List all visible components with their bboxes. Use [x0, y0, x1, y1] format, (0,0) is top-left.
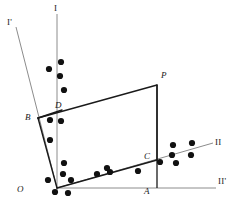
axis-I-prime-label: I'	[7, 18, 12, 27]
data-point	[57, 73, 63, 79]
axes-group	[16, 14, 216, 190]
data-point	[46, 66, 52, 72]
data-point	[60, 171, 66, 177]
data-point	[173, 160, 179, 166]
label-B: B	[25, 113, 31, 122]
data-point	[47, 137, 53, 143]
label-A: A	[144, 187, 150, 196]
data-point	[94, 171, 100, 177]
data-point	[47, 117, 53, 123]
data-point	[107, 169, 113, 175]
data-point	[188, 152, 194, 158]
label-O: O	[17, 185, 24, 194]
axis-II-prime-label: II'	[218, 177, 226, 186]
data-point	[135, 168, 141, 174]
data-point	[45, 177, 51, 183]
axis-I-label: I	[54, 4, 57, 13]
figure-canvas: II'IIII' OABCDP	[0, 0, 240, 203]
data-point	[58, 118, 64, 124]
data-point	[61, 87, 67, 93]
data-point	[65, 190, 71, 196]
label-P: P	[161, 71, 167, 80]
figure-vector-layer	[0, 0, 240, 203]
data-point	[157, 159, 163, 165]
data-point	[61, 160, 67, 166]
polygon-edge-C-O	[57, 160, 157, 188]
data-point	[169, 152, 175, 158]
data-point	[170, 142, 176, 148]
scatter-points-group	[45, 59, 195, 196]
axis-II-label: II	[215, 138, 221, 147]
label-D: D	[55, 101, 62, 110]
label-C: C	[144, 152, 150, 161]
data-point	[68, 177, 74, 183]
data-point	[52, 189, 58, 195]
data-point	[58, 59, 64, 65]
data-point	[189, 140, 195, 146]
